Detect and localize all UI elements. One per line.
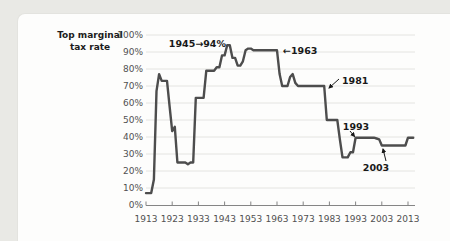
y-tick-label: 90% xyxy=(123,47,143,57)
y-tick-label: 30% xyxy=(123,149,143,159)
y-tick-label: 10% xyxy=(123,183,143,193)
tax-rate-line-chart: 0%10%20%30%40%50%60%70%80%90%100% 191319… xyxy=(0,0,450,241)
y-tick-label: 70% xyxy=(123,81,143,91)
annotation-label: 1945→94% xyxy=(169,38,227,49)
y-tick-label: 20% xyxy=(123,166,143,176)
x-tick-label: 1973 xyxy=(292,214,315,224)
x-tick-label: 1943 xyxy=(213,214,236,224)
x-tick-label: 1933 xyxy=(187,214,210,224)
x-tick-label: 1983 xyxy=(318,214,341,224)
x-tick-label: 1923 xyxy=(161,214,184,224)
x-tick-label: 1963 xyxy=(266,214,289,224)
annotation-label: 2003 xyxy=(363,162,389,173)
y-tick-label: 50% xyxy=(123,115,143,125)
annotation-label: 1993 xyxy=(343,121,369,132)
y-tick-label: 100% xyxy=(117,30,143,40)
annotation-arrow xyxy=(329,79,339,88)
x-tick-label: 1993 xyxy=(344,214,367,224)
x-tick-label: 2003 xyxy=(370,214,393,224)
y-tick-label: 40% xyxy=(123,132,143,142)
y-tick-label: 60% xyxy=(123,98,143,108)
y-tick-label: 0% xyxy=(129,200,144,210)
x-tick-label: 2013 xyxy=(397,214,420,224)
x-tick-label: 1913 xyxy=(135,214,158,224)
x-axis-tick-labels: 1913192319331943195319631973198319932003… xyxy=(135,214,420,224)
annotation-arrow xyxy=(383,149,386,161)
annotation-label: ←1963 xyxy=(283,45,317,56)
y-tick-label: 80% xyxy=(123,64,143,74)
x-axis xyxy=(146,202,415,206)
y-axis-tick-labels: 0%10%20%30%40%50%60%70%80%90%100% xyxy=(117,30,143,210)
annotation-label: 1981 xyxy=(342,75,368,86)
x-tick-label: 1953 xyxy=(239,214,262,224)
